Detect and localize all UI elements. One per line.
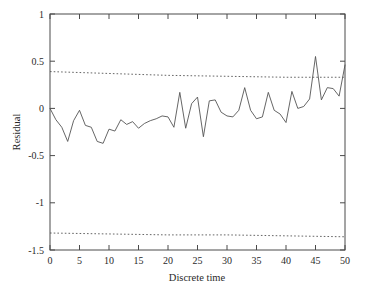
y-tick-label: 0.5 — [32, 56, 45, 67]
y-axis-tick-labels: -1.5-1-0.500.51 — [28, 9, 44, 256]
x-tick-label: 35 — [252, 255, 262, 266]
x-tick-label: 25 — [193, 255, 203, 266]
x-tick-label: 45 — [311, 255, 321, 266]
x-tick-label: 20 — [163, 255, 173, 266]
x-tick-label: 15 — [134, 255, 144, 266]
x-tick-label: 10 — [104, 255, 114, 266]
x-axis-title: Discrete time — [169, 272, 226, 283]
y-tick-label: 1 — [39, 9, 44, 20]
residual-plot-figure: 05101520253035404550 -1.5-1-0.500.51 Dis… — [0, 0, 365, 297]
x-tick-label: 0 — [48, 255, 53, 266]
x-tick-label: 50 — [340, 255, 350, 266]
plot-background — [50, 14, 345, 250]
x-axis-tick-labels: 05101520253035404550 — [48, 255, 351, 266]
x-tick-label: 5 — [77, 255, 82, 266]
x-tick-label: 40 — [281, 255, 291, 266]
y-tick-label: 0 — [39, 103, 44, 114]
y-tick-label: -1.5 — [28, 245, 44, 256]
chart-canvas: 05101520253035404550 -1.5-1-0.500.51 Dis… — [0, 0, 365, 297]
y-tick-label: -0.5 — [28, 150, 44, 161]
x-tick-label: 30 — [222, 255, 232, 266]
y-tick-label: -1 — [36, 197, 44, 208]
y-axis-title: Residual — [11, 114, 22, 151]
